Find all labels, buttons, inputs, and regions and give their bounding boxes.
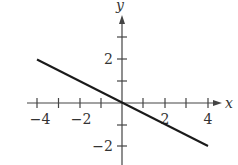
x-axis-label: x — [225, 95, 233, 111]
y-tick-label-neg2: −2 — [92, 138, 113, 154]
chart-canvas: −4 −2 2 4 2 −2 x y — [0, 0, 238, 165]
x-tick-label-neg4: −4 — [30, 111, 51, 127]
x-tick-label-4: 4 — [204, 111, 213, 127]
x-axis-arrow-icon — [213, 100, 222, 106]
y-axis-arrow-icon — [119, 15, 125, 24]
y-tick-label-2: 2 — [104, 51, 113, 67]
y-axis-label: y — [115, 0, 125, 13]
x-tick-label-neg2: −2 — [71, 111, 92, 127]
